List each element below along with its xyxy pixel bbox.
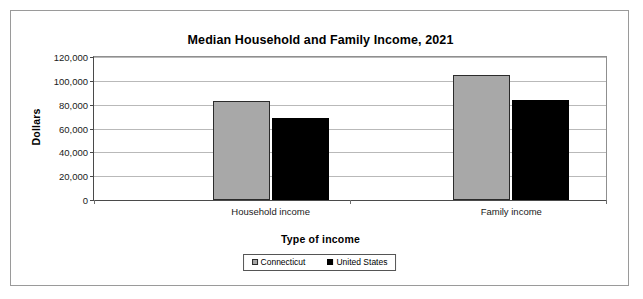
y-tick-mark: [90, 57, 94, 58]
x-axis-label: Type of income: [11, 233, 630, 245]
y-tick-label: 60,000: [59, 123, 88, 134]
legend-swatch-icon: [252, 259, 258, 265]
y-tick-label: 120,000: [54, 52, 88, 63]
chart-title: Median Household and Family Income, 2021: [11, 33, 630, 47]
bar-united-states-family-income: [512, 100, 569, 200]
legend-label: Connecticut: [261, 258, 306, 267]
bar-connecticut-family-income: [453, 75, 510, 200]
y-tick-label: 0: [83, 195, 88, 206]
x-tick-mark: [606, 200, 607, 204]
gridline: [94, 57, 606, 58]
x-tick-label: Household income: [231, 206, 310, 217]
x-tick-mark: [350, 200, 351, 204]
y-tick-mark: [90, 129, 94, 130]
y-tick-label: 40,000: [59, 147, 88, 158]
chart-figure: Median Household and Family Income, 2021…: [10, 10, 629, 286]
y-tick-mark: [90, 81, 94, 82]
chart-legend: ConnecticutUnited States: [243, 254, 397, 271]
y-tick-label: 80,000: [59, 99, 88, 110]
legend-item[interactable]: Connecticut: [252, 258, 306, 267]
gridline: [94, 81, 606, 82]
legend-label: United States: [336, 258, 387, 267]
y-tick-label: 20,000: [59, 171, 88, 182]
y-tick-mark: [90, 176, 94, 177]
y-axis-label: Dollars: [30, 109, 42, 146]
bar-connecticut-household-income: [213, 101, 270, 200]
y-tick-label: 100,000: [54, 75, 88, 86]
legend-item[interactable]: United States: [327, 258, 387, 267]
plot-area: 020,00040,00060,00080,000100,000120,000 …: [93, 56, 607, 201]
y-tick-mark: [90, 152, 94, 153]
y-tick-mark: [90, 105, 94, 106]
x-tick-label: Family income: [481, 206, 542, 217]
bar-united-states-household-income: [272, 118, 329, 200]
legend-swatch-icon: [327, 259, 333, 265]
x-tick-mark: [94, 200, 95, 204]
